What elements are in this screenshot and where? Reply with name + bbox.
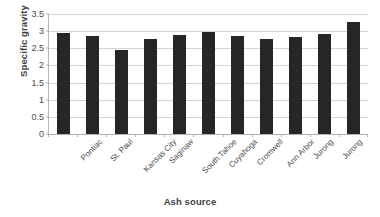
bar-slot <box>281 14 310 134</box>
y-tick-label: 1 <box>39 95 44 104</box>
bar-cromwell[interactable] <box>231 36 244 134</box>
bar-slot <box>194 14 223 134</box>
bar-pontiac[interactable] <box>57 33 70 134</box>
bar-slot <box>223 14 252 134</box>
x-tick-mark-end <box>367 134 368 137</box>
x-tick-mark <box>135 134 136 137</box>
bar-slot <box>136 14 165 134</box>
y-tick-label: 1.5 <box>31 78 44 87</box>
y-tick-label: 2.5 <box>31 44 44 53</box>
bar-jurong[interactable] <box>289 37 302 134</box>
x-tick-mark <box>164 134 165 137</box>
x-tick-label: St. Paul <box>109 138 134 163</box>
bar-slot <box>165 14 194 134</box>
bar-chart: Specific gravity 00.511.522.533.5 Pontia… <box>0 0 380 217</box>
x-tick-mark <box>223 134 224 137</box>
bar-st-paul[interactable] <box>86 36 99 134</box>
bar-saginaw[interactable] <box>144 39 157 134</box>
y-axis-title: Specific gravity <box>17 0 31 101</box>
bar-slot <box>107 14 136 134</box>
x-axis-title: Ash source <box>0 196 380 207</box>
bar-south-tahoe[interactable] <box>173 35 186 134</box>
bar-ann-arbor[interactable] <box>260 39 273 134</box>
y-tick-label: 0.5 <box>31 112 44 121</box>
bar-slot <box>310 14 339 134</box>
bar-slot <box>49 14 78 134</box>
x-tick-mark <box>106 134 107 137</box>
bar-cuyahoga[interactable] <box>202 32 215 134</box>
bar-industrial-sludge[interactable] <box>347 22 360 134</box>
x-tick-mark <box>339 134 340 137</box>
bar-kansas-city[interactable] <box>115 50 128 134</box>
x-tick-label: Pontiac <box>80 138 105 163</box>
plot-area: 00.511.522.533.5 <box>48 14 368 134</box>
bar-slot <box>339 14 368 134</box>
x-tick-mark <box>281 134 282 137</box>
y-tick-label: 3 <box>39 27 44 36</box>
bars-layer <box>49 14 368 134</box>
x-axis-tick-labels: PontiacSt. PaulKansas CitySaginawSouth T… <box>48 138 368 190</box>
bar-jurong[interactable] <box>318 34 331 134</box>
y-tick-label: 2 <box>39 61 44 70</box>
x-tick-label: Cromwell <box>256 138 285 167</box>
bar-slot <box>78 14 107 134</box>
bar-slot <box>252 14 281 134</box>
x-tick-mark <box>193 134 194 137</box>
y-tick-label: 3.5 <box>31 10 44 19</box>
x-tick-label: Jurong <box>341 138 364 161</box>
x-tick-mark <box>48 134 49 137</box>
y-tick-label: 0 <box>39 130 44 139</box>
x-tick-mark <box>77 134 78 137</box>
